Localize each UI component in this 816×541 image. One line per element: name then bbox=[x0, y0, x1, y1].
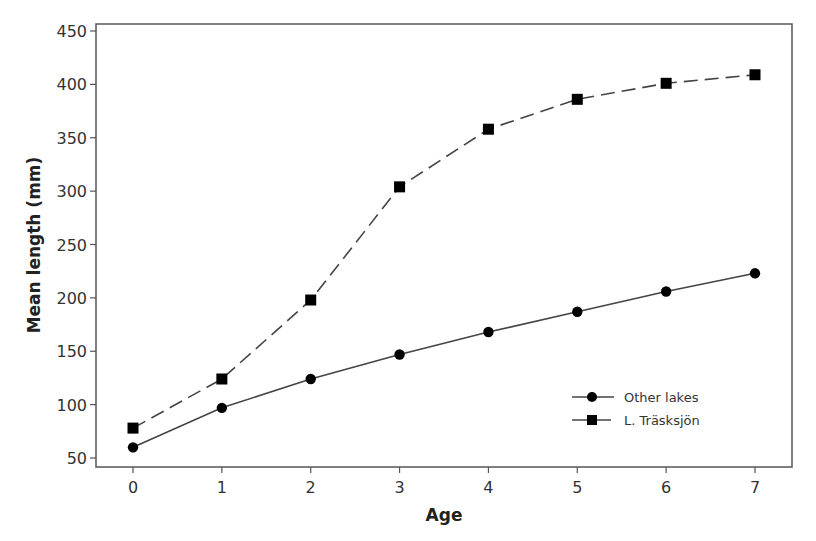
circle-marker-icon bbox=[394, 349, 404, 359]
circle-marker-icon bbox=[306, 374, 316, 384]
x-tick-label: 2 bbox=[306, 478, 316, 497]
y-tick-label: 150 bbox=[56, 342, 87, 361]
legend-label: L. Träsksjön bbox=[624, 413, 700, 428]
x-axis: 01234567 bbox=[128, 467, 760, 497]
x-tick-label: 7 bbox=[750, 478, 760, 497]
circle-marker-icon bbox=[661, 286, 671, 296]
square-marker-icon bbox=[750, 69, 761, 80]
y-axis: 50100150200250300350400450 bbox=[56, 22, 96, 468]
y-tick-label: 200 bbox=[56, 289, 87, 308]
circle-marker-icon bbox=[572, 307, 582, 317]
circle-marker-icon bbox=[128, 442, 138, 452]
square-marker-icon bbox=[305, 295, 316, 306]
line-chart: 50100150200250300350400450 01234567 Age … bbox=[0, 0, 816, 541]
x-tick-label: 6 bbox=[661, 478, 671, 497]
y-tick-label: 350 bbox=[56, 129, 87, 148]
square-marker-icon bbox=[128, 423, 139, 434]
y-axis-title: Mean length (mm) bbox=[24, 157, 44, 334]
y-tick-label: 100 bbox=[56, 396, 87, 415]
square-marker-icon bbox=[394, 181, 405, 192]
y-tick-label: 450 bbox=[56, 22, 87, 41]
y-tick-label: 50 bbox=[67, 449, 87, 468]
circle-marker-icon bbox=[750, 268, 760, 278]
y-tick-label: 250 bbox=[56, 236, 87, 255]
x-tick-label: 0 bbox=[128, 478, 138, 497]
x-axis-title: Age bbox=[426, 505, 463, 525]
square-marker-icon bbox=[572, 94, 583, 105]
circle-marker-icon bbox=[217, 403, 227, 413]
legend-label: Other lakes bbox=[624, 390, 699, 405]
circle-marker-icon bbox=[483, 327, 493, 337]
y-tick-label: 300 bbox=[56, 182, 87, 201]
y-tick-label: 400 bbox=[56, 75, 87, 94]
square-marker-icon bbox=[661, 78, 672, 89]
x-tick-label: 3 bbox=[394, 478, 404, 497]
x-tick-label: 4 bbox=[483, 478, 493, 497]
circle-marker-icon bbox=[587, 392, 597, 402]
x-tick-label: 5 bbox=[572, 478, 582, 497]
square-marker-icon bbox=[587, 415, 597, 425]
x-tick-label: 1 bbox=[217, 478, 227, 497]
square-marker-icon bbox=[216, 374, 227, 385]
square-marker-icon bbox=[483, 124, 494, 135]
